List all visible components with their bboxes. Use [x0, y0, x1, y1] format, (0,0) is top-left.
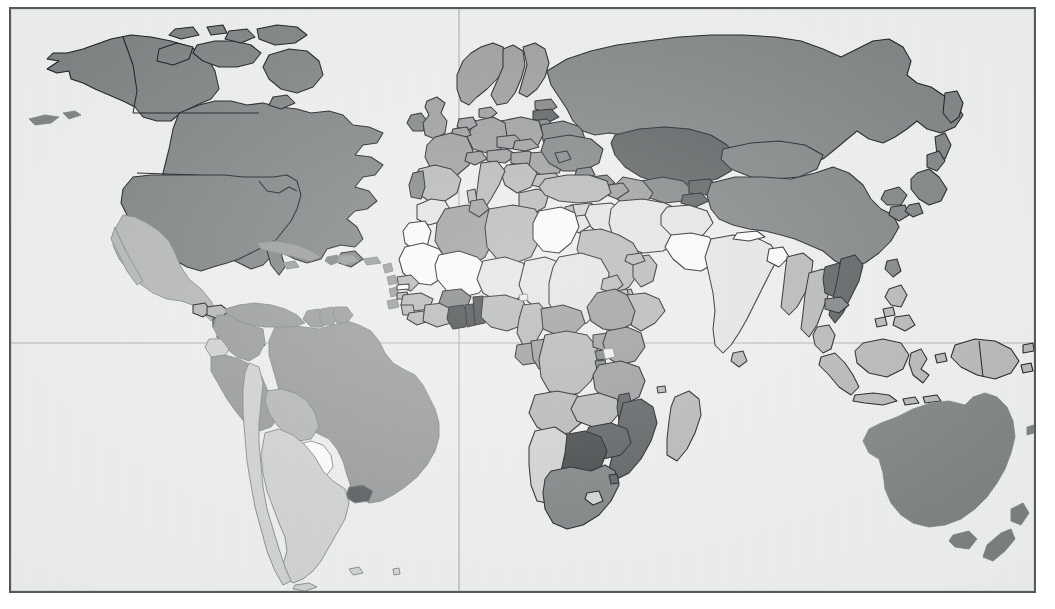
figure-world-choropleth-map [0, 0, 1055, 609]
region-solomon-islet [1021, 363, 1033, 373]
region-canada-arctic-baffin [263, 49, 323, 93]
region-papua-islet-a [1023, 343, 1034, 353]
region-russia [547, 35, 963, 161]
region-philippines-luzon [885, 285, 907, 307]
region-north-korea [881, 187, 907, 205]
region-gambia [397, 284, 409, 290]
region-mid-ocean-islet [393, 568, 400, 575]
region-jamaica [283, 261, 299, 269]
region-falkland-islands [349, 567, 363, 575]
region-french-guiana [333, 307, 353, 323]
region-united-kingdom [423, 97, 447, 139]
region-dem-rep-congo [539, 331, 599, 397]
region-canada-arctic-islet-b [169, 27, 199, 39]
region-comoros-islet [657, 386, 666, 393]
region-philippines-islet-b [875, 317, 887, 327]
region-balkans-former-yugoslavia [501, 163, 537, 193]
region-kenya [603, 327, 645, 365]
region-south-africa [543, 465, 619, 529]
region-south-america [205, 303, 439, 591]
region-new-caledonia-islet [1027, 425, 1034, 435]
region-oceania [863, 393, 1034, 561]
region-new-zealand-south [983, 529, 1015, 561]
region-australia [863, 393, 1015, 527]
region-lesser-sunda-a [903, 397, 919, 405]
region-lesser-antilles-a [383, 263, 393, 273]
region-java [853, 393, 897, 405]
region-tasmania [949, 531, 977, 549]
region-mongolia [721, 141, 823, 179]
region-puerto-rico [363, 257, 381, 265]
region-canada-arctic-ellesmere [257, 25, 307, 45]
region-lesser-antilles-b [387, 275, 397, 285]
region-malaysia-peninsula [813, 325, 835, 353]
world-map-svg [11, 9, 1034, 591]
region-tierra-del-fuego [293, 583, 317, 591]
region-turkey [539, 175, 611, 203]
region-borneo [855, 339, 909, 377]
lake-chad [519, 294, 528, 301]
region-maluku-islet [935, 353, 947, 363]
region-trinidad [387, 299, 399, 309]
region-new-zealand-north [1011, 503, 1029, 525]
region-sumatra [819, 353, 859, 395]
region-philippines-islet-a [883, 307, 895, 317]
region-aleutian-islet-a [63, 111, 81, 119]
region-zambia [571, 393, 621, 427]
map-plate-frame [9, 7, 1036, 593]
region-sulawesi [909, 349, 929, 383]
region-egypt [533, 207, 579, 253]
region-south-atlantic-islet [393, 568, 400, 575]
region-madagascar [667, 391, 701, 461]
lake-victoria [603, 348, 615, 359]
region-taiwan [885, 259, 901, 277]
region-japan-honshu [911, 169, 947, 205]
region-portugal [409, 171, 425, 199]
region-aleutian-islands [29, 115, 59, 125]
region-sri-lanka [731, 351, 747, 367]
region-north-america [29, 25, 399, 349]
region-philippines-mindanao [893, 315, 915, 331]
region-papua-new-guinea [951, 339, 1019, 379]
region-eswatini [609, 474, 619, 484]
region-canada-arctic-islet-a [207, 25, 227, 35]
